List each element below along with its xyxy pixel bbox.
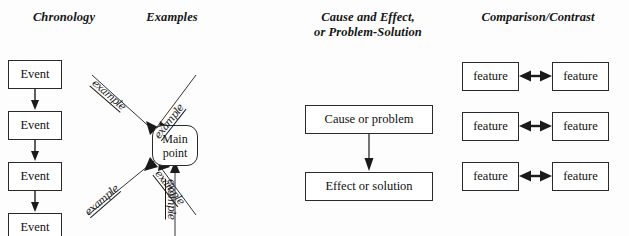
example-label-bottom: example xyxy=(166,179,178,219)
comparison-feature-label: feature xyxy=(563,169,598,184)
comparison-feature-label: feature xyxy=(473,69,508,84)
heading-comparison-text: Comparison/Contrast xyxy=(481,10,594,24)
cause-label: Cause or problem xyxy=(325,112,414,127)
chronology-event-label: Event xyxy=(20,67,49,82)
heading-chronology: Chronology xyxy=(12,10,116,25)
down-arrow-icon xyxy=(28,140,42,162)
comparison-feature-label: feature xyxy=(563,69,598,84)
down-arrow-icon xyxy=(28,191,42,213)
chronology-event-label: Event xyxy=(20,118,49,133)
chronology-event-box: Event xyxy=(8,213,62,236)
examples-cluster: Main point example example example examp… xyxy=(78,55,202,236)
comparison-feature-box-right: feature xyxy=(552,162,609,191)
chronology-event-box: Event xyxy=(8,111,62,140)
comparison-feature-label: feature xyxy=(563,119,598,134)
double-headed-arrow-icon xyxy=(519,169,552,183)
comparison-feature-label: feature xyxy=(473,119,508,134)
heading-chronology-text: Chronology xyxy=(33,10,95,24)
comparison-feature-box-left: feature xyxy=(462,112,519,141)
comparison-feature-box-right: feature xyxy=(552,112,609,141)
main-point-line-2: point xyxy=(163,146,188,160)
effect-or-solution-box: Effect or solution xyxy=(305,172,433,201)
effect-label: Effect or solution xyxy=(325,179,412,194)
chronology-event-box: Event xyxy=(8,162,62,191)
chronology-event-label: Event xyxy=(20,169,49,184)
heading-cause-and-effect: Cause and Effect, or Problem-Solution xyxy=(288,10,448,40)
comparison-feature-label: feature xyxy=(473,169,508,184)
down-arrow-icon xyxy=(28,89,42,111)
double-headed-arrow-icon xyxy=(519,69,552,83)
chronology-event-box: Event xyxy=(8,60,62,89)
heading-cause-line-2: or Problem-Solution xyxy=(288,25,448,40)
diagram-canvas: Chronology Examples Cause and Effect, or… xyxy=(0,0,629,236)
heading-cause-line-1: Cause and Effect, xyxy=(321,10,415,24)
cause-or-problem-box: Cause or problem xyxy=(305,105,433,134)
double-headed-arrow-icon xyxy=(519,119,552,133)
heading-comparison-contrast: Comparison/Contrast xyxy=(452,10,624,25)
heading-examples: Examples xyxy=(120,10,224,25)
comparison-feature-box-left: feature xyxy=(462,62,519,91)
comparison-feature-box-right: feature xyxy=(552,62,609,91)
chronology-event-label: Event xyxy=(20,220,49,235)
down-arrow-icon xyxy=(362,134,376,172)
comparison-feature-box-left: feature xyxy=(462,162,519,191)
heading-examples-text: Examples xyxy=(146,10,198,24)
